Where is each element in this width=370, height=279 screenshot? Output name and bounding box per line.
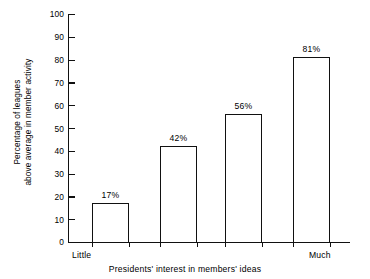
bar-value-2: 42% [160, 133, 197, 143]
bar-value-1: 17% [92, 190, 129, 200]
y-tick-label-90: 90 [40, 33, 64, 42]
y-tick-mark-30 [69, 174, 75, 175]
x-tick-mark-8 [330, 243, 331, 247]
y-tick-mark-20 [69, 196, 75, 197]
y-tick-label-60: 60 [40, 102, 64, 111]
bar-2 [160, 146, 197, 243]
x-tick-mark-5 [225, 243, 226, 247]
y-tick-mark-10 [69, 219, 75, 220]
x-tick-mark-6 [262, 243, 263, 247]
x-axis-label-left: Little [72, 250, 91, 260]
y-tick-label-50: 50 [40, 125, 64, 134]
x-tick-mark-7 [293, 243, 294, 247]
y-tick-mark-40 [69, 151, 75, 152]
x-axis-title: Presidents' interest in members' ideas [0, 264, 370, 274]
y-tick-label-80: 80 [40, 56, 64, 65]
y-tick-mark-70 [69, 82, 75, 83]
bar-chart: Percentage of leagues above average in m… [0, 0, 370, 279]
y-axis-title-line-1: Percentage of leagues [12, 58, 23, 185]
y-axis-title-line-2: above average in member activity [23, 58, 34, 185]
y-tick-label-40: 40 [40, 147, 64, 156]
y-tick-mark-60 [69, 105, 75, 106]
bar-value-4: 81% [293, 44, 330, 54]
x-tick-mark-3 [160, 243, 161, 247]
x-tick-mark-4 [197, 243, 198, 247]
bar-value-3: 56% [225, 101, 262, 111]
y-tick-label-20: 20 [40, 193, 64, 202]
y-tick-label-0: 0 [40, 238, 64, 247]
y-tick-label-10: 10 [40, 216, 64, 225]
x-axis-label-right: Much [309, 250, 331, 260]
bar-3 [225, 114, 262, 243]
bar-4 [293, 57, 330, 243]
y-tick-mark-90 [69, 37, 75, 38]
y-tick-label-30: 30 [40, 170, 64, 179]
bar-1 [92, 203, 129, 243]
x-tick-mark-1 [92, 243, 93, 247]
y-tick-mark-80 [69, 60, 75, 61]
y-tick-mark-100 [69, 14, 75, 15]
y-tick-label-70: 70 [40, 79, 64, 88]
y-tick-label-100: 100 [40, 10, 64, 19]
y-tick-mark-50 [69, 128, 75, 129]
x-tick-mark-2 [129, 243, 130, 247]
